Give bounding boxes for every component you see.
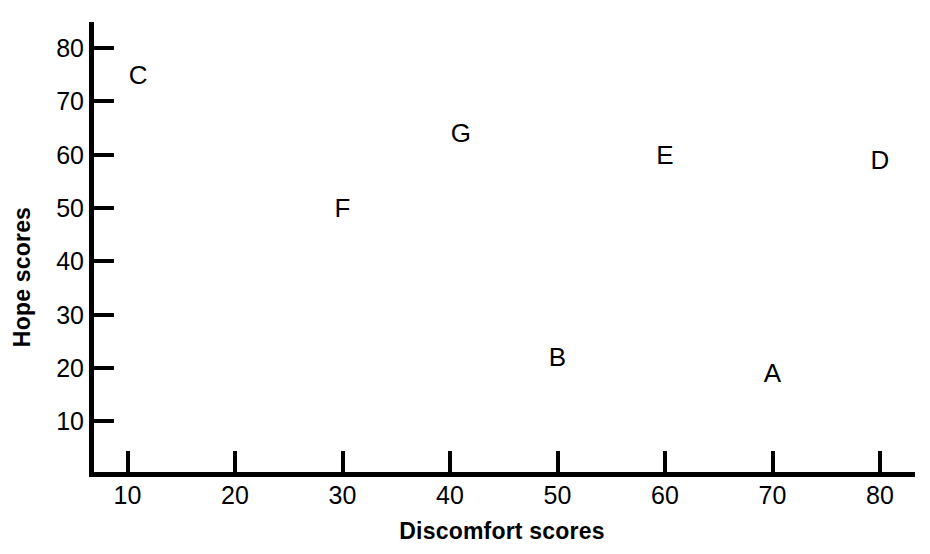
data-point-g: G: [451, 120, 471, 146]
y-axis-tick: [94, 313, 114, 317]
data-point-d: D: [871, 147, 890, 173]
x-axis-tick-label: 40: [415, 483, 485, 508]
y-axis-tick: [94, 419, 114, 423]
x-axis-title: Discomfort scores: [89, 518, 915, 545]
x-axis-tick: [448, 451, 452, 472]
y-axis-tick: [94, 366, 114, 370]
y-axis-tick-label: 80: [38, 36, 84, 61]
x-axis-tick-label: 10: [93, 483, 163, 508]
y-axis-tick: [94, 206, 114, 210]
data-point-f: F: [335, 195, 351, 221]
y-axis-tick: [94, 259, 114, 263]
y-axis-title: Hope scores: [0, 0, 44, 554]
x-axis-tick: [771, 451, 775, 472]
y-axis-spine: [89, 22, 94, 477]
x-axis-tick-label: 80: [845, 483, 915, 508]
x-axis-tick-label: 20: [200, 483, 270, 508]
x-axis-tick-label: 70: [738, 483, 808, 508]
y-axis-tick-label: 20: [38, 355, 84, 380]
x-axis-tick: [126, 451, 130, 472]
data-point-b: B: [549, 344, 566, 370]
x-axis-tick: [233, 451, 237, 472]
x-axis-tick-label: 60: [630, 483, 700, 508]
y-axis-tick-label: 60: [38, 142, 84, 167]
x-axis-tick: [878, 451, 882, 472]
x-axis-tick: [556, 451, 560, 472]
data-point-a: A: [764, 360, 781, 386]
x-axis-tick-label: 30: [308, 483, 378, 508]
y-axis-tick: [94, 99, 114, 103]
data-point-c: C: [129, 62, 148, 88]
y-axis-tick: [94, 153, 114, 157]
scatter-plot-figure: 1020304050607080 1020304050607080 ABCDEF…: [0, 0, 930, 554]
y-axis-tick-label: 50: [38, 195, 84, 220]
x-axis-tick: [341, 451, 345, 472]
x-axis-spine: [89, 472, 915, 477]
data-point-e: E: [656, 142, 673, 168]
x-axis-tick: [663, 451, 667, 472]
y-axis-tick-label: 30: [38, 302, 84, 327]
y-axis-tick-label: 40: [38, 249, 84, 274]
y-axis-tick: [94, 46, 114, 50]
x-axis-tick-label: 50: [523, 483, 593, 508]
y-axis-tick-label: 70: [38, 89, 84, 114]
y-axis-tick-label: 10: [38, 409, 84, 434]
